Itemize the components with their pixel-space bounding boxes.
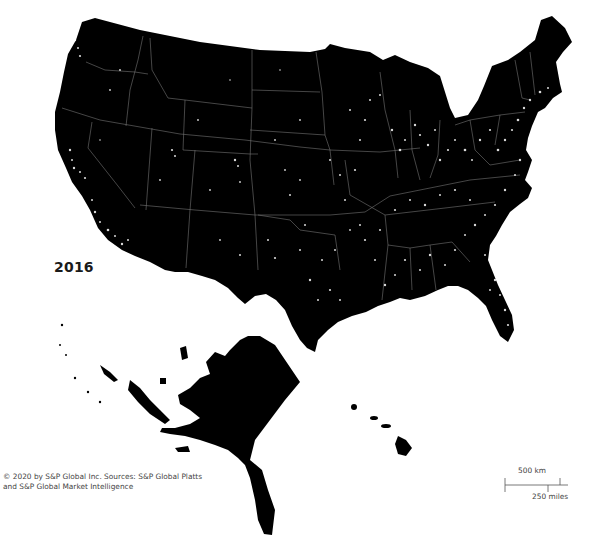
contiguous-us (55, 16, 572, 352)
scale-miles-label: 250 miles (532, 492, 568, 501)
credit-line-2: and S&P Global Market Intelligence (3, 482, 202, 492)
hawaii (351, 404, 412, 456)
source-credit: © 2020 by S&P Global Inc. Sources: S&P G… (3, 472, 202, 492)
credit-line-1: © 2020 by S&P Global Inc. Sources: S&P G… (3, 472, 202, 482)
alaska (59, 324, 300, 535)
year-label: 2016 (54, 259, 94, 275)
